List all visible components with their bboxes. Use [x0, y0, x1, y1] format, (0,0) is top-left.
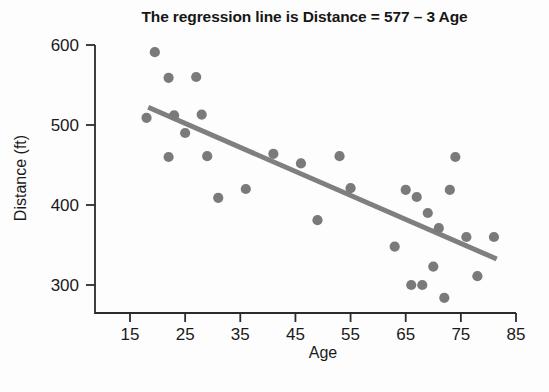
axis-spines	[95, 45, 516, 313]
y-axis-tick-label: 400	[51, 196, 79, 215]
x-axis-title: Age	[309, 344, 338, 361]
data-point	[489, 232, 499, 242]
x-axis-tick-label: 25	[176, 325, 195, 344]
data-point	[439, 293, 449, 303]
data-point	[412, 192, 422, 202]
scatter-plot-figure: The regression line is Distance = 577 – …	[0, 0, 549, 392]
data-point	[169, 110, 179, 120]
data-point	[450, 152, 460, 162]
y-axis-title: Distance (ft)	[12, 135, 29, 221]
data-point	[241, 184, 251, 194]
x-axis-tick-label: 35	[231, 325, 250, 344]
data-point	[296, 158, 306, 168]
data-point	[445, 185, 455, 195]
data-point	[345, 183, 355, 193]
x-axis-tick-label: 65	[396, 325, 415, 344]
x-axis-tick-label: 55	[341, 325, 360, 344]
data-point	[213, 193, 223, 203]
data-point	[164, 73, 174, 83]
x-axis-tick-label: 75	[451, 325, 470, 344]
data-point	[180, 128, 190, 138]
y-axis-tick-label: 600	[51, 36, 79, 55]
data-point	[472, 271, 482, 281]
data-point	[197, 110, 207, 120]
y-axis-tick-label: 500	[51, 116, 79, 135]
axis-spine	[95, 45, 516, 313]
data-point	[461, 232, 471, 242]
x-axis-tick-label: 45	[286, 325, 305, 344]
data-point	[141, 113, 151, 123]
data-point	[191, 72, 201, 82]
data-point	[406, 280, 416, 290]
data-point	[390, 242, 400, 252]
data-point	[334, 151, 344, 161]
x-axis-tick-label: 15	[121, 325, 140, 344]
data-point	[434, 223, 444, 233]
data-point	[150, 47, 160, 57]
x-axis-tick-label: 85	[507, 325, 526, 344]
data-point	[401, 185, 411, 195]
data-point	[202, 151, 212, 161]
plot-canvas: 300400500600 1525354555657585 Distance (…	[0, 0, 549, 392]
regression-line	[148, 107, 497, 259]
y-axis-tick-labels: 300400500600	[51, 36, 95, 295]
data-point	[312, 215, 322, 225]
data-point	[417, 280, 427, 290]
x-axis-tick-labels: 1525354555657585	[121, 313, 526, 344]
data-point	[423, 208, 433, 218]
y-axis-tick-label: 300	[51, 276, 79, 295]
regression-line-path	[148, 107, 497, 259]
data-point	[268, 149, 278, 159]
data-point	[428, 262, 438, 272]
data-points	[141, 47, 499, 303]
data-point	[164, 152, 174, 162]
